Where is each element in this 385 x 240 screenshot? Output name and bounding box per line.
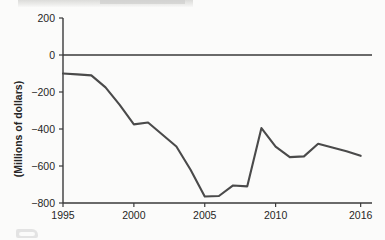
data-series-line (63, 74, 361, 197)
x-tick-label: 1995 (51, 209, 75, 221)
x-tick-label: 2016 (349, 209, 373, 221)
axis-ticks (59, 18, 361, 207)
y-tick-labels: 200 0 −200 −400 −600 −800 (31, 12, 55, 209)
x-tick-label: 2000 (122, 209, 146, 221)
x-tick-labels: 1995 2000 2005 2010 2016 (51, 209, 372, 221)
x-tick-label: 2005 (193, 209, 217, 221)
y-tick-label: −800 (31, 197, 55, 209)
chart-page: 200 0 −200 −400 −600 −800 1995 2000 2005… (0, 0, 385, 240)
line-chart: 200 0 −200 −400 −600 −800 1995 2000 2005… (0, 0, 385, 240)
y-tick-label: 200 (37, 12, 55, 24)
y-axis-title: (Millions of dollars) (12, 81, 24, 177)
y-tick-label: −400 (31, 123, 55, 135)
y-tick-label: 0 (49, 49, 55, 61)
x-tick-label: 2010 (264, 209, 288, 221)
y-tick-label: −200 (31, 86, 55, 98)
y-tick-label: −600 (31, 160, 55, 172)
